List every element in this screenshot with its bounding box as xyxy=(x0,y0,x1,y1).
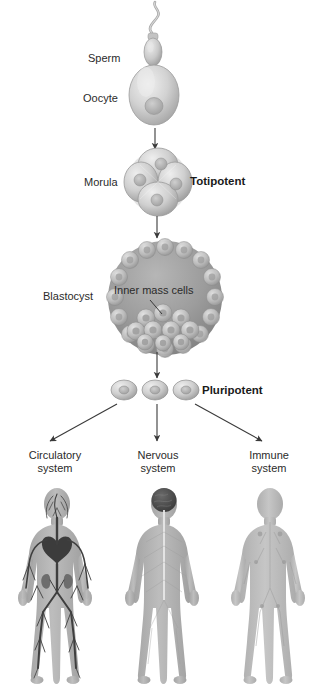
arrow-to-immune xyxy=(195,404,262,441)
brain-shape xyxy=(152,488,177,512)
immune-system-label-line1: Immune xyxy=(249,449,289,461)
sperm-label: Sperm xyxy=(88,52,120,65)
oocyte-graphic xyxy=(129,65,179,125)
totipotent-label: Totipotent xyxy=(190,175,245,188)
morula-graphic xyxy=(124,148,192,216)
blastocyst-label: Blastocyst xyxy=(43,290,93,303)
circulatory-body-figure xyxy=(18,488,92,684)
circulatory-system-label-line1: Circulatory xyxy=(29,449,82,461)
inner-mass-cells-label: Inner mass cells xyxy=(114,284,193,297)
nervous-body-figure xyxy=(125,488,199,684)
immune-body-figure xyxy=(231,488,305,684)
circulatory-system-label-line2: system xyxy=(38,462,73,474)
pluripotent-label: Pluripotent xyxy=(202,384,263,397)
circulatory-system-label: Circulatory system xyxy=(12,449,98,475)
diagram-canvas: Sperm Oocyte Morula Totipotent Blastocys… xyxy=(0,0,325,694)
pluripotent-cells-graphic xyxy=(111,380,199,400)
inner-mass-pointer xyxy=(150,300,162,314)
nervous-system-label-line1: Nervous xyxy=(138,449,179,461)
diagram-graphics xyxy=(0,0,325,694)
nervous-system-label: Nervous system xyxy=(120,449,196,475)
sperm-graphic xyxy=(144,2,162,66)
immune-system-label: Immune system xyxy=(228,449,310,475)
oocyte-label: Oocyte xyxy=(83,92,118,105)
morula-label: Morula xyxy=(84,176,118,189)
arrow-to-circulatory xyxy=(50,404,117,441)
immune-system-label-line2: system xyxy=(252,462,287,474)
blastocyst-graphic xyxy=(107,239,224,358)
inner-cell-mass-cluster xyxy=(127,304,199,351)
heart-shape xyxy=(42,537,72,564)
nervous-system-label-line2: system xyxy=(141,462,176,474)
